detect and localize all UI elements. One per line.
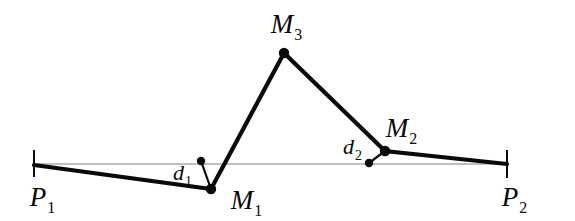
label-p2-base: P [502,182,519,212]
label-m1: M1 [231,187,262,214]
label-d2-base: d [343,134,354,159]
label-p1-sub: 1 [47,199,55,216]
label-d1-base: d [173,160,184,185]
label-d2-sub: 2 [355,148,362,163]
vertex-dot-m2 [380,146,390,156]
vertex-dot-m1 [206,184,216,194]
label-p2: P2 [502,184,527,211]
label-p1: P1 [30,184,55,211]
label-p2-sub: 2 [519,199,527,216]
offset-foot-dot-d2 [365,159,373,167]
label-m2: M2 [386,115,417,142]
polyline-path [34,53,507,189]
label-m1-base: M [231,185,254,215]
label-m3-base: M [271,9,294,39]
label-m2-sub: 2 [409,130,417,147]
label-m2-base: M [386,113,409,143]
figure-canvas: P1 M1 M3 M2 P2 d1 d2 [0,0,575,221]
label-d1: d1 [173,162,191,184]
label-p1-base: P [30,182,47,212]
label-m3: M3 [271,11,302,38]
label-m1-sub: 1 [254,202,262,219]
label-d2: d2 [343,136,361,158]
offset-foot-dot-d1 [197,157,205,165]
label-m3-sub: 3 [294,26,302,43]
vertex-dot-m3 [279,48,289,58]
label-d1-sub: 1 [185,174,192,189]
